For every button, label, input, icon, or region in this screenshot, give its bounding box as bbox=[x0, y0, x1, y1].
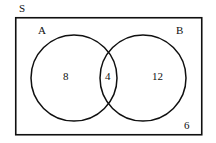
outside-sets-count: 6 bbox=[184, 120, 190, 131]
set-b-only-count: 12 bbox=[152, 71, 163, 82]
intersection-count: 4 bbox=[105, 71, 111, 82]
set-a-only-count: 8 bbox=[63, 71, 69, 82]
set-b-label: B bbox=[176, 25, 183, 36]
venn-diagram-screenshot: S A B 8 4 12 6 bbox=[0, 0, 216, 143]
set-a-label: A bbox=[38, 25, 46, 36]
universal-set-label: S bbox=[19, 3, 25, 14]
